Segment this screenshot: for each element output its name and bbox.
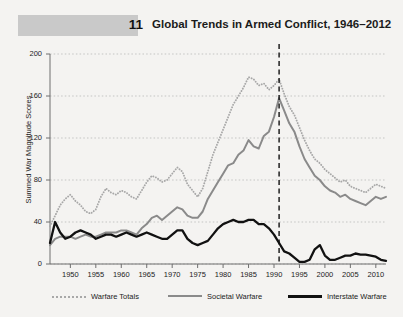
legend-swatch-icon [288, 292, 322, 301]
y-tick-label: 80 [18, 175, 42, 184]
figure-header: 11 Global Trends in Armed Conflict, 1946… [0, 14, 403, 38]
legend-item-warfare-totals[interactable]: Warfare Totals [52, 288, 139, 304]
series-line [50, 220, 386, 262]
y-tick-label: 200 [18, 49, 42, 58]
legend-label: Interstate Warfare [327, 292, 387, 301]
x-tick-label: 2010 [361, 270, 391, 279]
y-tick-label: 0 [18, 259, 42, 268]
legend-label: Warfare Totals [91, 292, 139, 301]
legend-item-societal-warfare[interactable]: Societal Warfare [168, 288, 262, 304]
chart-legend: Warfare TotalsSocietal WarfareInterstate… [0, 288, 403, 308]
chart-plot-area: Summed War Magnitude Scores 040801201602… [0, 40, 403, 280]
line-chart [0, 40, 403, 280]
y-tick-label: 120 [18, 133, 42, 142]
legend-swatch-icon [168, 292, 202, 301]
y-tick-label: 160 [18, 91, 42, 100]
series-line [50, 77, 386, 226]
page-title: Global Trends in Armed Conflict, 1946–20… [152, 18, 391, 30]
legend-item-interstate-warfare[interactable]: Interstate Warfare [288, 288, 387, 304]
y-axis-title: Summed War Magnitude Scores [24, 60, 33, 240]
legend-label: Societal Warfare [207, 292, 262, 301]
figure-container: 11 Global Trends in Armed Conflict, 1946… [0, 0, 403, 317]
legend-swatch-icon [52, 292, 86, 301]
series-line [50, 98, 386, 245]
figure-number: 11 [113, 17, 143, 32]
y-tick-label: 40 [18, 217, 42, 226]
